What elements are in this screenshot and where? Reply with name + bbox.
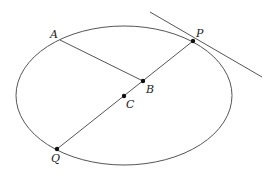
point-q-dot: [55, 147, 59, 151]
point-p-label: P: [195, 27, 204, 40]
tangent-line-at-p: [150, 12, 262, 77]
point-a-label: A: [49, 28, 58, 41]
points-group: APBCQ: [49, 27, 204, 165]
ellipse-diagram: APBCQ: [0, 0, 275, 181]
point-p-dot: [191, 39, 195, 43]
point-q-label: Q: [51, 152, 60, 165]
chord-ab: [60, 40, 143, 81]
point-b-dot: [141, 79, 145, 83]
point-b-label: B: [145, 83, 154, 96]
point-c-label: C: [126, 98, 135, 111]
